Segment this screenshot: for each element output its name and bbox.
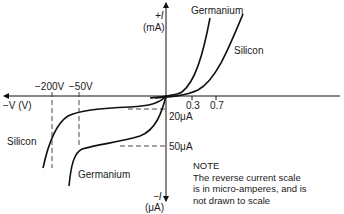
y-negative-unit: (μA) — [145, 202, 164, 213]
silicon-reverse-label: Silicon — [7, 136, 36, 147]
tick-label-50ua: 50μA — [169, 141, 193, 152]
tick-label-20ua: 20μA — [169, 111, 193, 122]
y-negative-label: −I — [153, 191, 162, 202]
germanium-reverse-label: Germanium — [78, 169, 130, 180]
y-positive-label: +I — [155, 10, 164, 21]
tick-label-neg-200v: −200V — [35, 81, 64, 92]
note-block: NOTE The reverse current scale is in mic… — [193, 160, 307, 206]
note-line-2: is in micro-amperes, and is — [193, 183, 307, 195]
tick-label-0.3: 0.3 — [186, 100, 200, 111]
germanium-forward-label: Germanium — [191, 5, 243, 16]
y-positive-unit: (mA) — [143, 22, 165, 33]
note-line-1: The reverse current scale — [193, 172, 307, 184]
note-line-3: not drawn to scale — [193, 195, 307, 207]
silicon-forward-label: Silicon — [234, 45, 263, 56]
x-negative-label: −V (V) — [3, 100, 32, 111]
tick-label-0.7: 0.7 — [210, 100, 224, 111]
silicon-forward-curve — [155, 14, 243, 98]
tick-label-neg-50v: −50V — [69, 81, 93, 92]
note-heading: NOTE — [193, 160, 307, 172]
